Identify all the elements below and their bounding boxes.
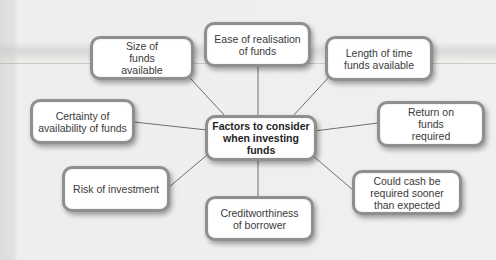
node-size-of-funds: Size of funds available (90, 36, 194, 80)
center-label: Factors to consider when investing funds (212, 120, 310, 156)
node-label: Certainty of availability of funds (36, 110, 129, 134)
node-risk-of-investment: Risk of investment (62, 166, 170, 212)
node-label: Ease of realisation of funds (213, 33, 302, 57)
node-label: Length of time funds available (334, 47, 424, 71)
node-label: Risk of investment (73, 183, 159, 195)
node-label: Return on funds required (398, 106, 464, 142)
node-certainty: Certainty of availability of funds (30, 99, 135, 144)
connector-cash (312, 155, 353, 190)
connector-certainty (134, 122, 207, 130)
node-label: Creditworthiness of borrower (216, 207, 303, 231)
connector-risk (168, 155, 207, 188)
node-creditworthiness: Creditworthiness of borrower (205, 196, 314, 241)
connector-size (190, 78, 226, 117)
node-label: Size of funds available (113, 40, 171, 76)
node-label: Could cash be required sooner than expec… (359, 175, 455, 211)
node-length-of-time: Length of time funds available (325, 36, 433, 81)
node-return-on-funds: Return on funds required (377, 101, 485, 147)
node-ease-of-realisation: Ease of realisation of funds (204, 22, 311, 67)
connector-length (292, 77, 329, 117)
node-could-cash-be-required: Could cash be required sooner than expec… (352, 170, 462, 215)
connector-return (314, 123, 378, 131)
node-center-factors: Factors to consider when investing funds (205, 115, 317, 161)
